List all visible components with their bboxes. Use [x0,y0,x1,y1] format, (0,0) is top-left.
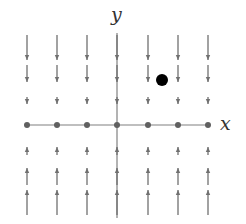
arrow-down-icon [146,35,150,60]
arrow-down-icon [55,65,59,82]
arrow-up-icon [115,147,119,155]
arrow-up-icon [146,168,150,185]
arrow-down-icon [85,65,89,82]
arrow-down-icon [25,65,29,82]
equilibrium-dot [145,122,151,128]
arrow-up-icon [146,190,150,215]
arrow-down-icon [25,35,29,60]
highlighted-point [156,74,168,86]
equilibrium-dot [84,122,90,128]
arrow-down-icon [176,97,180,104]
arrow-up-icon [85,147,89,155]
equilibrium-dot [175,122,181,128]
arrow-down-icon [85,97,89,104]
arrow-up-icon [85,168,89,185]
vector-field-diagram [0,0,246,224]
arrow-up-icon [206,168,210,185]
arrow-down-icon [55,97,59,104]
arrow-down-icon [176,65,180,82]
y-axis-label: y [111,5,122,24]
arrow-up-icon [25,190,29,215]
equilibrium-dot [24,122,30,128]
arrow-up-icon [176,168,180,185]
x-axis-label: x [220,114,231,133]
arrow-up-icon [25,168,29,185]
arrow-up-icon [55,190,59,215]
arrow-down-icon [206,35,210,60]
arrow-down-icon [176,35,180,60]
arrow-down-icon [146,65,150,82]
equilibrium-dot [54,122,60,128]
arrow-up-icon [115,168,119,185]
arrow-up-icon [206,190,210,215]
arrow-up-icon [176,190,180,215]
arrow-up-icon [85,190,89,215]
arrow-down-icon [115,65,119,82]
arrow-up-icon [115,190,119,215]
equilibrium-dot [205,122,211,128]
arrow-down-icon [85,35,89,60]
arrow-down-icon [25,97,29,104]
arrow-up-icon [25,147,29,155]
arrow-down-icon [206,97,210,104]
arrow-down-icon [115,35,119,60]
arrow-down-icon [115,97,119,104]
arrow-up-icon [176,147,180,155]
arrow-up-icon [55,147,59,155]
arrow-up-icon [206,147,210,155]
equilibrium-dot [114,122,120,128]
arrow-up-icon [146,147,150,155]
arrow-down-icon [146,97,150,104]
arrow-down-icon [206,65,210,82]
arrow-up-icon [55,168,59,185]
arrow-down-icon [55,35,59,60]
